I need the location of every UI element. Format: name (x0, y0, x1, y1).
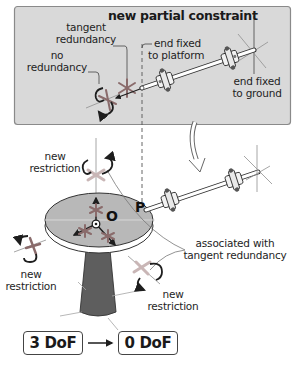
origin-point (92, 220, 100, 228)
label-right-restriction: new restriction (144, 289, 202, 312)
dof-after-box: 0 DoF (118, 331, 178, 355)
universal-joint-icon (223, 166, 246, 194)
label-end-fixed-ground: end fixed to ground (228, 76, 286, 99)
panel-title: new partial constraint (108, 8, 258, 23)
label-left-restriction: new restriction (2, 269, 60, 292)
transition-arrow (189, 122, 205, 172)
rotation-arrow-icon (83, 158, 113, 174)
ground-fixed-end-icon (244, 145, 272, 192)
label-top-restriction: new restriction (26, 151, 84, 174)
label-end-fixed-platform: end fixed to platform (148, 38, 204, 61)
platform-stand (80, 250, 116, 316)
point-o-label: O (106, 208, 118, 224)
dof-before-box: 3 DoF (23, 331, 83, 355)
right-restriction-x-icon (134, 262, 150, 274)
point-p-label: P (135, 199, 145, 215)
label-tangent-redundancy: tangent redundancy (55, 22, 117, 45)
label-associated-tangent-redundancy: associated with tangent redundancy (180, 238, 290, 261)
universal-joint-icon (159, 186, 182, 214)
diagram: new partial constraint tangent redundanc… (0, 0, 295, 372)
label-no-redundancy: no redundancy (26, 50, 88, 73)
left-restriction-x-icon (26, 238, 40, 254)
